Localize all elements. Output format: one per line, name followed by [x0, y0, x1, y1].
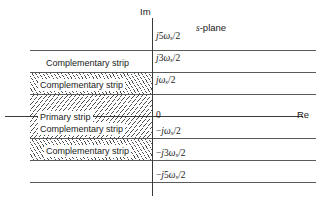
strip-boundary-line-6: [30, 182, 316, 183]
tick-label-neg-jws-2: −jωs/2: [156, 126, 181, 136]
imaginary-axis: [152, 18, 153, 196]
imaginary-axis-label: Im: [140, 6, 151, 17]
tick-label-neg-j5ws-2: −j5ωs/2: [156, 170, 186, 180]
strip-boundary-line-5: [30, 160, 316, 161]
tick-label-j3ws-2: j3ωs/2: [156, 53, 180, 63]
strip-boundary-line-1: [30, 50, 316, 51]
strip-boundary-line-3: [30, 94, 316, 95]
strip-boundary-line-4: [30, 138, 316, 139]
strip-boundary-line-2: [30, 72, 316, 73]
s-plane-strip-diagram: Im Re s-plane Complementary strip Comple…: [0, 0, 321, 203]
strip-label-complementary-upper-1: Complementary strip: [38, 79, 125, 91]
s-plane-suffix: -plane: [200, 22, 226, 33]
strip-label-complementary-lower-2: Complementary strip: [44, 145, 131, 157]
tick-label-j5ws-2: j5ωs/2: [156, 31, 180, 41]
strip-label-primary: Primary strip: [38, 111, 93, 123]
strip-label-complementary-upper-2: Complementary strip: [44, 57, 131, 69]
strip-label-complementary-lower-1: Complementary strip: [38, 123, 125, 135]
tick-label-zero: 0: [156, 110, 161, 120]
tick-label-neg-j3ws-2: −j3ωs/2: [156, 148, 186, 158]
s-plane-annotation: s-plane: [196, 22, 226, 33]
tick-label-jws-2: jωs/2: [156, 75, 175, 85]
real-axis-label: Re: [297, 109, 309, 120]
